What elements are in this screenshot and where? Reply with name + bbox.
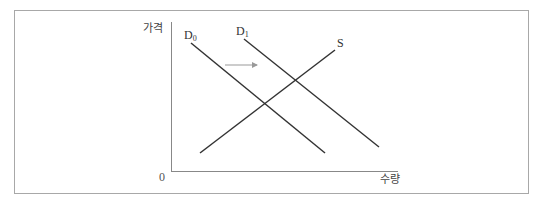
supply-curve-s	[200, 50, 335, 153]
demand-curve-d1	[244, 39, 379, 147]
d1-label-main: D	[236, 24, 245, 38]
y-axis-label: 가격	[143, 22, 163, 35]
demand-curve-d0	[191, 43, 325, 153]
d0-label-main: D	[184, 28, 193, 42]
d0-label-sub: 0	[193, 34, 197, 43]
d1-label-sub: 1	[245, 30, 249, 39]
origin-label: 0	[159, 170, 165, 184]
supply-demand-diagram: 가격 0 수량 D0 D1 S	[0, 0, 544, 208]
demand-curve-d1-label: D1	[236, 24, 249, 39]
x-axis-label: 수량	[380, 173, 400, 186]
supply-curve-s-label: S	[337, 36, 344, 50]
demand-curve-d0-label: D0	[184, 28, 197, 43]
